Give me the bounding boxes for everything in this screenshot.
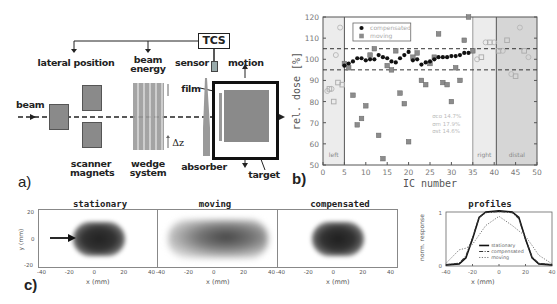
c-xtick: -20	[184, 269, 193, 275]
film-strip	[219, 93, 222, 141]
c-ylabel: y (mm)	[17, 225, 24, 255]
c-xtick: 0	[332, 269, 336, 275]
svg-text:IC number: IC number	[403, 178, 457, 189]
scanner-magnet-lower	[82, 122, 102, 148]
c-xlabel-stationary: x (mm)	[86, 278, 110, 286]
svg-text:50: 50	[532, 168, 542, 177]
c-xtick: -40	[156, 269, 165, 275]
c-xtick: -20	[304, 269, 313, 275]
target-label: target	[248, 170, 280, 179]
wedge-system	[133, 83, 164, 150]
svg-text:-20: -20	[468, 269, 477, 275]
svg-text:90: 90	[309, 76, 319, 85]
panel-b-letter: b)	[292, 170, 306, 187]
svg-text:60: 60	[309, 140, 319, 149]
dose-scatter-plot: 506070809010011012005101520253035404550I…	[290, 0, 557, 190]
title-stationary: stationary	[50, 199, 150, 209]
target-block	[224, 90, 269, 142]
wedge-system-label-2: system	[128, 168, 168, 177]
c-xlabel-profiles: x (mm)	[471, 278, 495, 286]
c-xtick: 20	[120, 269, 127, 275]
c-xlabel-compensated: x (mm)	[326, 278, 350, 286]
svg-text:-40: -40	[442, 269, 451, 275]
profiles-line-plot: -40-200204010stationarycompensatedmoving	[410, 208, 557, 278]
sensor-icon	[211, 61, 218, 72]
legend: compensatedmoving	[353, 23, 411, 41]
entrance-block	[49, 104, 69, 130]
c-xtick: -40	[37, 269, 46, 275]
svg-text:compensated: compensated	[491, 249, 524, 254]
svg-text:100: 100	[305, 55, 320, 64]
c-ytick-0: 0	[31, 236, 35, 242]
svg-text:45: 45	[511, 168, 521, 177]
svg-text:moving: moving	[370, 32, 393, 40]
svg-text:5: 5	[342, 168, 347, 177]
svg-text:80: 80	[309, 98, 319, 107]
delta-z-label: Δz	[170, 138, 186, 147]
svg-text:110: 110	[305, 34, 320, 43]
heatmap-moving	[157, 209, 279, 268]
beam-label: beam	[16, 100, 48, 109]
svg-text:25: 25	[425, 168, 435, 177]
svg-text:15: 15	[382, 168, 392, 177]
svg-text:1: 1	[439, 210, 443, 216]
svg-text:35: 35	[468, 168, 478, 177]
tcs-label: TCS	[199, 36, 229, 45]
lateral-position-label: lateral position	[36, 58, 116, 67]
c-xtick: -40	[276, 269, 285, 275]
svg-text:40: 40	[549, 269, 556, 275]
scanner-magnets-label-2: magnets	[70, 168, 112, 177]
c-xlabel-moving: x (mm)	[206, 278, 230, 286]
beam-energy-label-2: energy	[128, 64, 168, 73]
svg-text:0: 0	[497, 269, 501, 275]
svg-text:σco 14.7%: σco 14.7%	[432, 113, 461, 119]
c-xtick: 0	[212, 269, 216, 275]
film-label: film	[180, 84, 202, 93]
svg-text:70: 70	[309, 119, 319, 128]
c-xtick: 40	[387, 269, 394, 275]
title-moving: moving	[165, 199, 265, 209]
svg-text:40: 40	[489, 168, 499, 177]
svg-text:0: 0	[439, 263, 443, 269]
svg-text:distal: distal	[509, 151, 526, 158]
svg-text:30: 30	[447, 168, 457, 177]
c-ytick-neg20: -20	[24, 262, 33, 268]
svg-text:right: right	[477, 151, 492, 159]
c-xtick: 40	[148, 269, 155, 275]
svg-text:stationary: stationary	[491, 243, 515, 248]
absorber-label: absorber	[180, 162, 228, 171]
svg-text:σm 17.9%: σm 17.9%	[432, 121, 460, 127]
title-compensated: compensated	[285, 199, 395, 209]
svg-text:120: 120	[305, 13, 320, 22]
c-xtick: 20	[359, 269, 366, 275]
svg-text:10: 10	[361, 168, 371, 177]
svg-text:50: 50	[309, 161, 319, 170]
scanner-magnet-upper	[82, 85, 102, 111]
c-xtick: -20	[65, 269, 74, 275]
svg-text:rel. dose [%]: rel. dose [%]	[291, 52, 302, 130]
right-arrow-icon	[50, 234, 76, 242]
profiles-ylabel: norm. response	[418, 213, 425, 263]
c-xtick: 40	[268, 269, 275, 275]
absorber-wedge	[202, 78, 212, 156]
motion-label: motion	[228, 58, 262, 67]
svg-text:compensated: compensated	[370, 24, 411, 32]
panel-c-letter: c)	[24, 276, 37, 293]
svg-text:0: 0	[321, 168, 326, 177]
c-xtick: 20	[240, 269, 247, 275]
heatmap-compensated	[277, 209, 398, 268]
svg-text:moving: moving	[491, 255, 509, 260]
c-ytick-20: 20	[27, 209, 34, 215]
sensor-label: sensor	[174, 58, 210, 67]
c-xtick: 0	[93, 269, 97, 275]
panel-a-letter: a)	[18, 173, 31, 190]
svg-text:σst 14.6%: σst 14.6%	[432, 128, 460, 134]
svg-text:20: 20	[522, 269, 529, 275]
svg-text:left: left	[329, 151, 339, 158]
svg-text:20: 20	[404, 168, 414, 177]
